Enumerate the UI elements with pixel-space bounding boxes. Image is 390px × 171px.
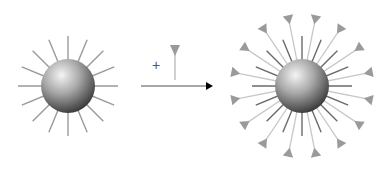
left-nanoparticle (18, 36, 118, 136)
ligand-triangle-icon (311, 148, 321, 158)
plus-sign: + (152, 58, 160, 72)
ligand-triangle-icon (230, 95, 240, 105)
ligand-triangle-icon (170, 45, 180, 56)
ligand-triangle-icon (258, 23, 267, 33)
ligand-triangle-icon (354, 42, 364, 51)
ligand-triangle-icon (258, 138, 267, 148)
ligand-triangle-icon (283, 148, 293, 158)
ligand-triangle-icon (354, 121, 364, 130)
reaction-arrow (141, 82, 213, 90)
ligand-triangle-icon (364, 95, 374, 105)
right-functionalized-nanoparticle (230, 14, 373, 157)
ligand-triangle-icon (364, 67, 374, 77)
arrow-head-icon (206, 82, 213, 90)
ligand-triangle-icon (337, 138, 346, 148)
diagram-canvas (0, 0, 390, 171)
ligand-triangle-icon (283, 14, 293, 24)
ligand-reagent (170, 45, 180, 80)
ligand-triangle-icon (337, 23, 346, 33)
ligand-triangle-icon (239, 42, 249, 51)
ligand-triangle-icon (239, 121, 249, 130)
nanoparticle-sphere (275, 59, 329, 113)
nanoparticle-sphere (41, 59, 95, 113)
ligand-triangle-icon (230, 67, 240, 77)
ligand-triangle-icon (311, 14, 321, 24)
